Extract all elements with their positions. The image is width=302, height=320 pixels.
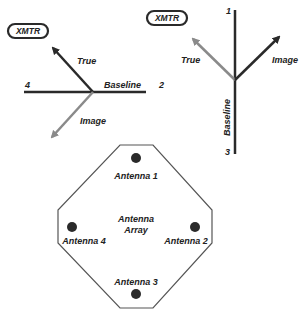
antenna-1-dot [131, 153, 141, 163]
true-arrow-left [53, 48, 93, 92]
antenna-2-label: Antenna 2 [163, 236, 208, 246]
right-baseline-diagram: XMTR True Image 1 3 Baseline [147, 6, 298, 157]
xmtr-badge-left: XMTR [8, 24, 48, 38]
antenna-3-label: Antenna 3 [113, 277, 158, 287]
baseline-label-left: Baseline [104, 80, 141, 90]
true-label-left: True [77, 56, 96, 66]
end-label-4: 4 [24, 80, 30, 90]
antenna-2-dot [190, 222, 200, 232]
antenna-array: Antenna 1 Antenna 2 Antenna 3 Antenna 4 … [58, 145, 212, 308]
end-label-1: 1 [226, 6, 231, 16]
array-center-label-2: Array [123, 225, 149, 235]
xmtr-badge-right: XMTR [147, 11, 187, 25]
left-baseline-diagram: XMTR True Baseline Image 4 2 [8, 24, 164, 137]
image-label-left: Image [80, 116, 106, 126]
antenna-3-dot [131, 289, 141, 299]
xmtr-label-right: XMTR [154, 13, 180, 23]
baseline-label-right: Baseline [222, 99, 232, 136]
direction-finding-diagram: XMTR True Baseline Image 4 2 XMTR True I… [0, 0, 302, 320]
antenna-1-label: Antenna 1 [113, 171, 158, 181]
antenna-4-dot [67, 222, 77, 232]
true-label-right: True [181, 55, 200, 65]
end-label-3: 3 [225, 147, 230, 157]
xmtr-label-left: XMTR [15, 26, 41, 36]
image-arrow-left [52, 92, 93, 137]
antenna-4-label: Antenna 4 [61, 236, 106, 246]
image-label-right: Image [272, 55, 298, 65]
array-center-label-1: Antenna [117, 214, 154, 224]
end-label-2: 2 [158, 80, 164, 90]
